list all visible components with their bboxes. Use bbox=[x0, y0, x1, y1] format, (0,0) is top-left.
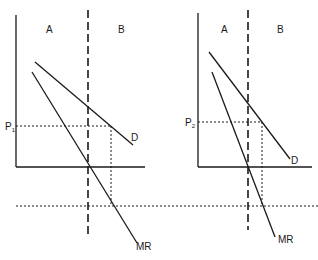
left-region-b-label: B bbox=[118, 24, 125, 35]
right-demand-label: D bbox=[291, 155, 298, 166]
right-region-a-label: A bbox=[221, 24, 228, 35]
left-demand-curve bbox=[35, 62, 133, 145]
left-price-subscript: 1 bbox=[12, 127, 16, 133]
right-demand-curve bbox=[209, 52, 290, 159]
left-mr-label: MR bbox=[136, 241, 152, 252]
left-demand-label: D bbox=[131, 132, 138, 143]
right-region-b-label: B bbox=[277, 24, 284, 35]
left-panel: A B P1 D MR bbox=[5, 10, 318, 252]
right-price-subscript: 2 bbox=[192, 123, 196, 129]
right-panel: A B P2 D MR bbox=[185, 10, 312, 245]
left-price-label: P1 bbox=[5, 121, 16, 133]
right-price-label: P2 bbox=[185, 117, 196, 129]
monopoly-diagram: A B P1 D MR A B P2 D MR bbox=[0, 0, 318, 260]
left-mr-curve bbox=[32, 72, 137, 243]
right-mr-label: MR bbox=[278, 234, 294, 245]
left-region-a-label: A bbox=[46, 24, 53, 35]
